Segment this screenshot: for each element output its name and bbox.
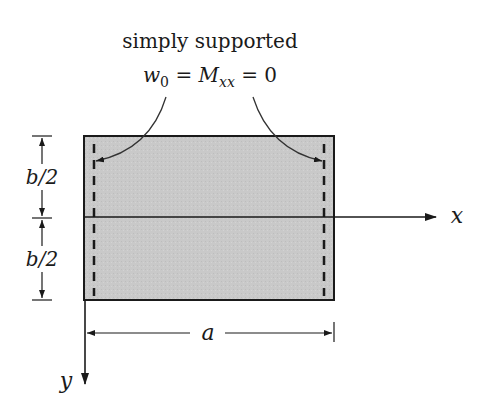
- y-axis-label: y: [59, 368, 73, 393]
- a-label: a: [201, 320, 214, 345]
- plate: [84, 136, 334, 300]
- caption-title: simply supported: [122, 29, 298, 53]
- b-half-bottom-label: b/2: [26, 247, 58, 271]
- b-half-top-label: b/2: [26, 165, 58, 189]
- plate-diagram: simply supported w0 = Mxx = 0 b/2 b/2 a …: [0, 0, 489, 412]
- b-dimension: [32, 136, 52, 300]
- caption-equation: w0 = Mxx = 0: [143, 63, 277, 90]
- x-axis-label: x: [451, 203, 464, 228]
